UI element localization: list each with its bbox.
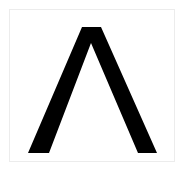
lambda-glyph-icon: [0, 0, 185, 172]
lambda-shape: [28, 27, 157, 153]
